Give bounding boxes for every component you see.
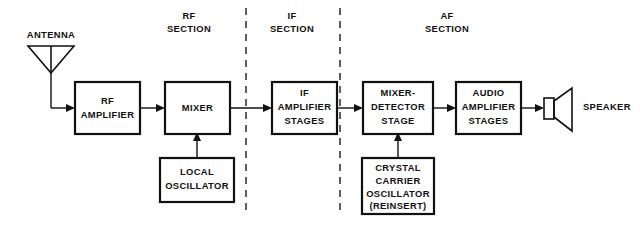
block-label-rf-amplifier-line1: RF [101, 95, 114, 106]
block-label-mixer: MIXER [182, 102, 213, 113]
block-label-audio-amplifier-line2: AMPLIFIER [462, 101, 516, 112]
block-label-local-oscillator-line2: OSCILLATOR [165, 180, 229, 191]
block-label-mixer-line1: MIXER [182, 102, 213, 113]
block-label-rf-amplifier-line2: AMPLIFIER [81, 109, 135, 120]
section-label-af-line1: AF [440, 10, 453, 21]
wire-ifamp-to-mixerdetector [337, 104, 363, 112]
wire-localosc-to-mixer [193, 132, 201, 158]
antenna-label: ANTENNA [27, 29, 75, 40]
wire-audioamp-to-speaker [521, 104, 544, 112]
section-label-af: AF SECTION [425, 10, 469, 34]
block-label-crystal-oscillator-line3: OSCILLATOR [366, 188, 430, 199]
wire-crystalosc-to-mixerdetector [394, 132, 402, 158]
block-label-crystal-oscillator-line1: CRYSTAL [375, 162, 421, 173]
section-label-rf: RF SECTION [167, 10, 211, 34]
block-diagram-canvas: RF SECTION IF SECTION AF SECTION RF AMPL… [0, 0, 640, 232]
block-label-crystal-oscillator-line4: (REINSERT) [369, 200, 426, 211]
section-label-if-line1: IF [287, 10, 296, 21]
block-label-crystal-oscillator-line2: CARRIER [375, 175, 420, 186]
speaker-label: SPEAKER [583, 101, 631, 112]
block-rf-amplifier[interactable] [75, 82, 140, 134]
wire-rfamp-to-mixer [140, 104, 165, 112]
wire-mixer-to-ifamp [230, 104, 272, 112]
wire-mixerdetector-to-audioamp [433, 104, 456, 112]
block-label-if-amplifier-line1: IF [300, 87, 309, 98]
block-diagram-svg: RF SECTION IF SECTION AF SECTION RF AMPL… [0, 0, 640, 232]
section-label-if-line2: SECTION [270, 23, 314, 34]
speaker-icon [544, 88, 572, 131]
block-label-if-amplifier-line3: STAGES [285, 115, 325, 126]
block-label-mixer-detector-line3: STAGE [381, 115, 414, 126]
block-label-audio-amplifier-line3: STAGES [469, 115, 509, 126]
section-label-if: IF SECTION [270, 10, 314, 34]
section-label-rf-line1: RF [182, 10, 195, 21]
section-label-rf-line2: SECTION [167, 23, 211, 34]
section-label-af-line2: SECTION [425, 23, 469, 34]
block-label-audio-amplifier-line1: AUDIO [473, 87, 505, 98]
antenna-icon [28, 46, 75, 112]
block-label-mixer-detector-line2: DETECTOR [371, 101, 425, 112]
block-label-mixer-detector-line1: MIXER- [381, 87, 416, 98]
block-label-if-amplifier-line2: AMPLIFIER [278, 101, 332, 112]
block-label-local-oscillator-line1: LOCAL [180, 166, 214, 177]
